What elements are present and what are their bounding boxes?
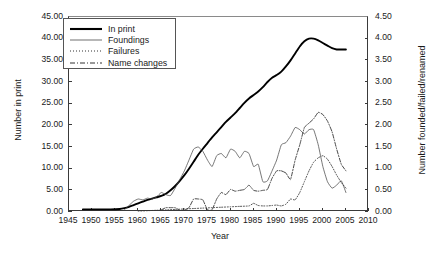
y-tick-left: 5.00 <box>23 184 63 194</box>
series-line-failures <box>138 156 346 211</box>
y-tick-right: 0.00 <box>375 206 415 216</box>
legend-label-in-print: In print <box>108 24 135 34</box>
legend-item-foundings: Foundings <box>69 34 170 45</box>
legend-item-in-print: In print <box>69 23 170 34</box>
y-tick-right: 1.50 <box>375 141 415 151</box>
legend-swatch-failures <box>69 46 103 56</box>
legend-swatch-foundings <box>69 35 103 45</box>
y-axis-label-right: Number founded/failed/renamed <box>417 40 427 180</box>
chart-legend: In print Foundings Failures Name changes <box>63 18 176 69</box>
legend-swatch-name-changes <box>69 58 103 68</box>
y-tick-right: 2.00 <box>375 119 415 129</box>
series-line-name-changes <box>161 112 346 210</box>
legend-item-name-changes: Name changes <box>69 57 170 68</box>
y-tick-right: 3.00 <box>375 76 415 86</box>
x-axis-label: Year <box>60 231 380 241</box>
y-tick-left: 10.00 <box>23 162 63 172</box>
y-tick-left: 30.00 <box>23 76 63 86</box>
y-tick-left: 35.00 <box>23 54 63 64</box>
x-tick: 2010 <box>354 215 382 225</box>
y-tick-left: 20.00 <box>23 119 63 129</box>
y-tick-right: 1.00 <box>375 162 415 172</box>
y-axis-label-left: Number in print <box>13 40 23 180</box>
legend-label-failures: Failures <box>108 46 139 56</box>
y-tick-left: 15.00 <box>23 141 63 151</box>
y-tick-left: 25.00 <box>23 97 63 107</box>
legend-label-foundings: Foundings <box>108 35 149 45</box>
legend-label-name-changes: Name changes <box>108 58 167 68</box>
y-tick-right: 3.50 <box>375 54 415 64</box>
y-tick-left: 45.00 <box>23 11 63 21</box>
y-tick-left: 40.00 <box>23 32 63 42</box>
y-tick-right: 2.50 <box>375 97 415 107</box>
legend-swatch-in-print <box>69 24 103 34</box>
legend-item-failures: Failures <box>69 46 170 57</box>
y-tick-right: 0.50 <box>375 184 415 194</box>
y-tick-right: 4.50 <box>375 11 415 21</box>
chart-figure: Number in print Number founded/failed/re… <box>0 0 430 256</box>
y-tick-right: 4.00 <box>375 32 415 42</box>
y-tick-left: 0.00 <box>23 206 63 216</box>
